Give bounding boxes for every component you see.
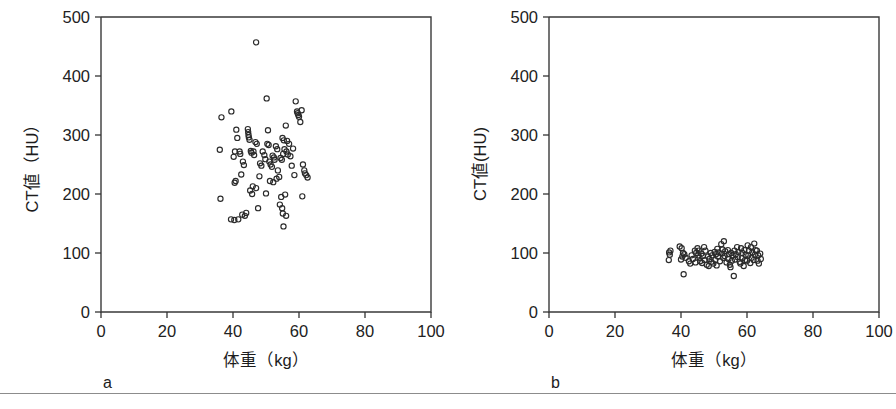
- data-point: [293, 99, 298, 104]
- figure-footer-rule: [0, 393, 896, 394]
- data-point: [279, 194, 284, 199]
- data-point: [283, 123, 288, 128]
- data-point: [298, 119, 303, 124]
- data-point: [263, 191, 268, 196]
- data-point: [239, 172, 244, 177]
- panel-b-xtick-label: 100: [865, 322, 893, 340]
- data-point: [255, 206, 260, 211]
- data-point: [731, 273, 736, 278]
- panel-b-ytick-label: 500: [510, 8, 538, 26]
- panel-b-xtick-label: 20: [606, 322, 624, 340]
- panel-a-frame: [101, 17, 431, 312]
- data-point: [235, 135, 240, 140]
- panel-b-ytick-label: 300: [510, 126, 538, 144]
- data-point: [265, 128, 270, 133]
- panel-b-xticks: 020406080100: [544, 312, 892, 340]
- panel-a-ytick-label: 300: [62, 126, 90, 144]
- panel-a-xtick-label: 100: [417, 322, 445, 340]
- data-point: [264, 96, 269, 101]
- data-point: [217, 147, 222, 152]
- data-point: [231, 154, 236, 159]
- panel-a-xtick-label: 80: [356, 322, 374, 340]
- data-point: [752, 241, 757, 246]
- panel-b-ytick-label: 0: [529, 303, 538, 321]
- data-point: [234, 127, 239, 132]
- figure-root: 020406080100 0100200300400500 体重（kg） CT値…: [0, 0, 896, 409]
- panel-a-ytick-label: 0: [81, 303, 90, 321]
- panel-a-yaxis-title: CT値（HU）: [23, 116, 41, 213]
- data-point: [219, 115, 224, 120]
- data-point: [666, 257, 671, 262]
- data-point: [300, 194, 305, 199]
- scatter-panel-b: 020406080100 0100200300400500 体重（kg） CT値…: [448, 0, 896, 409]
- panel-a-points: [217, 40, 310, 229]
- panel-a-xticks: 020406080100: [96, 312, 444, 340]
- data-point: [289, 163, 294, 168]
- data-point: [266, 142, 271, 147]
- data-point: [229, 109, 234, 114]
- panel-a-xtick-label: 60: [290, 322, 308, 340]
- panel-a-xtick-label: 0: [96, 322, 105, 340]
- panel-b-yaxis-title: CT値(HU): [471, 127, 489, 201]
- scatter-panel-a: 020406080100 0100200300400500 体重（kg） CT値…: [0, 0, 448, 409]
- panel-b-ytick-label: 100: [510, 244, 538, 262]
- panel-a-letter: a: [103, 374, 112, 391]
- data-point: [275, 168, 280, 173]
- data-point: [254, 40, 259, 45]
- data-point: [292, 173, 297, 178]
- panel-b-xtick-label: 0: [544, 322, 553, 340]
- data-point: [281, 224, 286, 229]
- panel-b-svg: 020406080100 0100200300400500 体重（kg） CT値…: [448, 0, 896, 409]
- panel-a-xaxis-title: 体重（kg）: [223, 351, 308, 369]
- data-point: [241, 162, 246, 167]
- data-point: [300, 162, 305, 167]
- panel-b-letter: b: [551, 374, 560, 391]
- panel-b-yticks: 0100200300400500: [510, 8, 549, 321]
- data-point: [267, 178, 272, 183]
- data-point: [257, 174, 262, 179]
- data-point: [290, 146, 295, 151]
- panel-b-xtick-label: 60: [738, 322, 756, 340]
- panel-a-ytick-label: 500: [62, 8, 90, 26]
- panel-b-xtick-label: 80: [804, 322, 822, 340]
- panel-b-frame: [549, 17, 879, 312]
- panel-b-xtick-label: 40: [672, 322, 690, 340]
- panel-a-ytick-label: 200: [62, 185, 90, 203]
- panel-a-ytick-label: 100: [62, 244, 90, 262]
- panel-a-xtick-label: 40: [224, 322, 242, 340]
- panel-b-xaxis-title: 体重（kg）: [671, 351, 756, 369]
- data-point: [218, 196, 223, 201]
- data-point: [681, 272, 686, 277]
- panel-b-ytick-label: 200: [510, 185, 538, 203]
- panel-a-xtick-label: 20: [158, 322, 176, 340]
- panel-b-points: [666, 239, 763, 279]
- panel-a-ytick-label: 400: [62, 67, 90, 85]
- data-point: [240, 159, 245, 164]
- panel-b-ytick-label: 400: [510, 67, 538, 85]
- panel-a-yticks: 0100200300400500: [62, 8, 101, 321]
- panel-a-svg: 020406080100 0100200300400500 体重（kg） CT値…: [0, 0, 448, 409]
